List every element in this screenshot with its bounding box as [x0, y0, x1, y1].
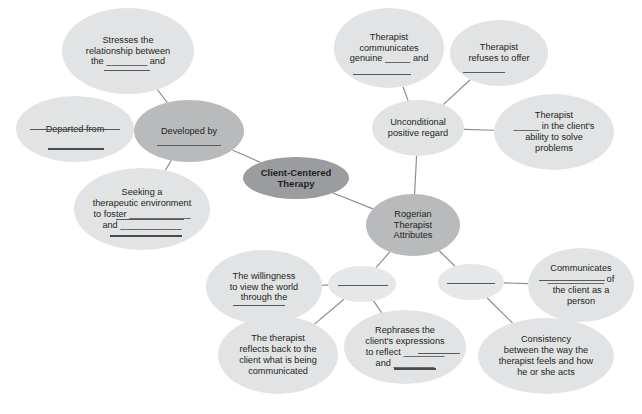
node-willingness-view-world[interactable]: The willingness to view the world throug… — [206, 250, 322, 324]
node-label-client-centered-therapy: Client-Centered Therapy — [243, 167, 349, 189]
answer-blank-blank-connector-left-9[interactable] — [338, 285, 388, 286]
concept-map-canvas: Stresses the relationship between the __… — [0, 0, 642, 414]
node-label-communicates-of-client: Communicates ___________ of the client a… — [528, 263, 634, 306]
node-rogerian-therapist-attributes[interactable]: Rogerian Therapist Attributes — [366, 194, 460, 256]
edge-blank-connector-right-to-communicates-of-client — [504, 283, 528, 284]
edge-client-centered-therapy-to-rogerian-therapist-attributes — [333, 193, 373, 209]
node-label-therapist-reflects-back: The therapist reflects back to the clien… — [218, 333, 338, 376]
node-developed-by[interactable]: Developed by — [134, 100, 244, 162]
node-seeking-therapeutic-environment[interactable]: Seeking a therapeutic environment to fos… — [74, 168, 210, 250]
edge-developed-by-to-client-centered-therapy — [232, 150, 260, 162]
answer-blank-therapist-refuses-to-offer-7[interactable] — [463, 72, 505, 73]
node-label-therapist-communicates-genuine: Therapist communicates genuine _____ and — [334, 32, 444, 65]
node-therapist-communicates-genuine[interactable]: Therapist communicates genuine _____ and — [334, 8, 444, 88]
node-unconditional-positive-regard[interactable]: Unconditional positive regard — [372, 100, 464, 156]
edge-blank-connector-left-to-rephrases-client-expressions — [374, 301, 382, 313]
node-label-willingness-view-world: The willingness to view the world throug… — [206, 271, 322, 304]
edge-unconditional-positive-regard-to-rogerian-therapist-attributes — [415, 156, 417, 194]
edge-stresses-relationship-to-developed-by — [157, 90, 167, 103]
answer-blank-stresses-relationship-0[interactable] — [104, 70, 150, 71]
node-client-centered-therapy[interactable]: Client-Centered Therapy — [243, 157, 349, 199]
answer-blank-therapist-communicates-genuine-6[interactable] — [353, 74, 411, 75]
node-label-unconditional-positive-regard: Unconditional positive regard — [372, 117, 464, 139]
answer-blank-communicates-of-client-11[interactable] — [539, 280, 605, 281]
answer-blank-departed-from-1[interactable] — [30, 129, 120, 130]
node-stresses-relationship[interactable]: Stresses the relationship between the __… — [62, 8, 194, 94]
node-label-rephrases-client-expressions: Rephrases the client's expressions to re… — [344, 325, 466, 368]
node-blank-connector-right[interactable] — [438, 264, 504, 300]
answer-blank-blank-connector-right-10[interactable] — [447, 283, 495, 284]
answer-blank-seeking-therapeutic-environment-5[interactable] — [110, 235, 182, 237]
node-rephrases-client-expressions[interactable]: Rephrases the client's expressions to re… — [344, 310, 466, 384]
node-communicates-of-client[interactable]: Communicates ___________ of the client a… — [528, 248, 634, 322]
node-label-therapist-believes-ability: Therapist _____ in the client's ability … — [494, 110, 614, 153]
edge-rogerian-therapist-attributes-to-blank-connector-left — [376, 252, 390, 268]
answer-blank-seeking-therapeutic-environment-4[interactable] — [116, 219, 184, 220]
edge-seeking-therapeutic-environment-to-developed-by — [165, 160, 171, 170]
answer-blank-rephrases-client-expressions-13[interactable] — [394, 368, 436, 370]
node-label-developed-by: Developed by — [134, 126, 244, 137]
node-therapist-believes-ability[interactable]: Therapist _____ in the client's ability … — [494, 94, 614, 170]
answer-blank-rephrases-client-expressions-12[interactable] — [418, 353, 460, 354]
node-label-consistency-therapist-feels: Consistency between the way the therapis… — [478, 334, 614, 377]
answer-blank-developed-by-3[interactable] — [157, 145, 221, 146]
answer-blank-departed-from-2[interactable] — [48, 148, 104, 150]
node-blank-connector-left[interactable] — [328, 266, 396, 302]
node-label-seeking-therapeutic-environment: Seeking a therapeutic environment to fos… — [74, 187, 210, 230]
edge-therapist-refuses-to-offer-to-unconditional-positive-regard — [443, 80, 470, 105]
answer-blank-willingness-view-world-8[interactable] — [233, 305, 285, 306]
edge-therapist-communicates-genuine-to-unconditional-positive-regard — [403, 87, 408, 101]
node-label-rogerian-therapist-attributes: Rogerian Therapist Attributes — [366, 209, 460, 242]
node-consistency-therapist-feels[interactable]: Consistency between the way the therapis… — [478, 318, 614, 394]
edge-therapist-believes-ability-to-unconditional-positive-regard — [464, 129, 494, 130]
edge-rogerian-therapist-attributes-to-blank-connector-right — [439, 251, 455, 267]
node-label-stresses-relationship: Stresses the relationship between the __… — [62, 35, 194, 68]
node-label-therapist-refuses-to-offer: Therapist refuses to offer — [450, 42, 548, 64]
edge-blank-connector-right-to-consistency-therapist-feels — [487, 298, 513, 323]
node-therapist-refuses-to-offer[interactable]: Therapist refuses to offer — [450, 20, 548, 86]
node-therapist-reflects-back[interactable]: The therapist reflects back to the clien… — [218, 316, 338, 394]
